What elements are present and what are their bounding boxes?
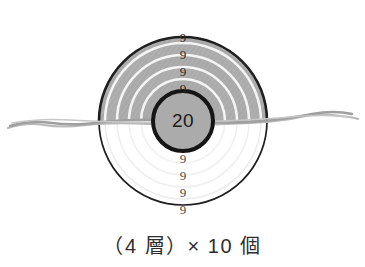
lower-layer-label-4: 9 [180,202,187,217]
lower-layer-label-1: 9 [180,151,187,166]
upper-layer-label-4: 9 [180,81,187,96]
core-circle: 20 [153,91,213,151]
lower-layer-label-3: 9 [180,185,187,200]
upper-layer-label-3: 9 [180,64,187,79]
concentric-layers-diagram: 20 9 9 9 9 9 9 9 9 [0,0,365,267]
figure-root: 20 9 9 9 9 9 9 9 9 （4 層）× 10 個 [0,0,365,267]
lower-layer-label-2: 9 [180,168,187,183]
figure-caption: （4 層）× 10 個 [0,230,365,259]
core-value-label: 20 [172,110,194,131]
upper-layer-label-2: 9 [180,47,187,62]
upper-layer-label-1: 9 [180,30,187,45]
